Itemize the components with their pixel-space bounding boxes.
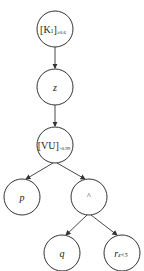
- node-p: p: [4, 179, 40, 215]
- edge-vu-and: [57, 163, 85, 179]
- node-z: z: [37, 69, 73, 105]
- edge-and-q: [66, 215, 87, 235]
- svg-text:q: q: [60, 248, 65, 259]
- node-k1: [K1]≥0.6: [37, 11, 73, 47]
- svg-text:^: ^: [87, 192, 91, 201]
- svg-text:p: p: [19, 192, 25, 203]
- node-and: ^: [71, 179, 107, 215]
- edge-vu-p: [26, 163, 53, 179]
- edge-and-r: [91, 215, 117, 235]
- node-q: q: [44, 235, 80, 271]
- svg-text:z: z: [52, 82, 57, 93]
- node-r: rz<5: [104, 235, 140, 271]
- tree-diagram: [K1]≥0.6 z [VU]>0.99 p ^ q rz<5: [0, 0, 144, 271]
- node-vu: [VU]>0.99: [37, 127, 73, 163]
